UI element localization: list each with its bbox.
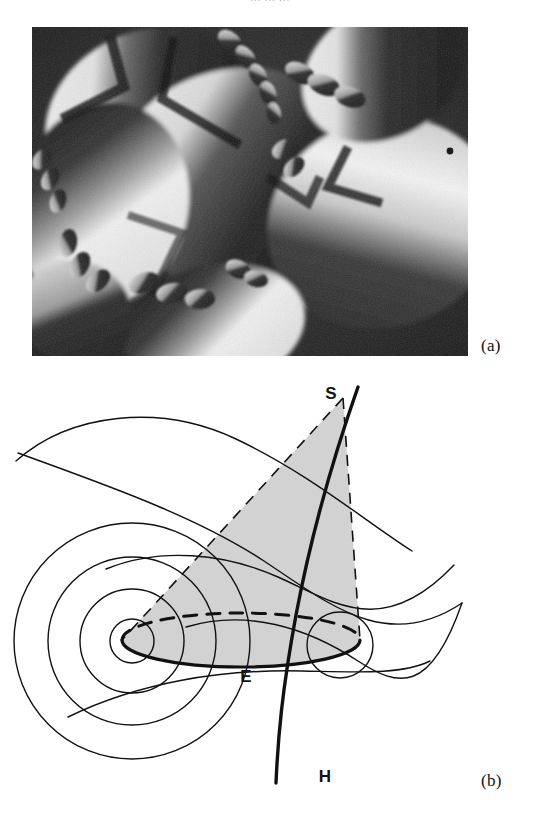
- panel-label-b: (b): [481, 771, 502, 791]
- focal-conic-domain-diagram: S E H: [10, 365, 480, 805]
- label-S: S: [325, 384, 336, 403]
- cone-sector-shading: [122, 398, 360, 667]
- label-H: H: [319, 767, 331, 786]
- panel-b-schematic: S E H: [10, 365, 480, 805]
- figure-root: … … …: [0, 0, 540, 817]
- label-E: E: [240, 667, 251, 686]
- panel-label-a: (a): [481, 336, 501, 356]
- micrograph-image: [32, 27, 468, 356]
- panel-a-micrograph: [32, 27, 468, 356]
- cropped-running-text: … … …: [0, 0, 540, 3]
